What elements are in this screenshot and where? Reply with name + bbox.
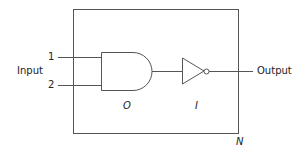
and-gate-label: O bbox=[123, 101, 131, 111]
inverter-label: I bbox=[195, 101, 198, 111]
output-label: Output bbox=[257, 66, 292, 76]
inverter-bubble-icon bbox=[204, 69, 209, 74]
input-label: Input bbox=[17, 66, 43, 76]
inverter-gate-icon bbox=[183, 58, 205, 84]
and-gate-icon bbox=[102, 53, 153, 91]
input-number-1: 1 bbox=[48, 52, 54, 62]
circuit-diagram bbox=[0, 0, 301, 152]
input-number-2: 2 bbox=[48, 80, 54, 90]
box-label: N bbox=[236, 137, 243, 147]
